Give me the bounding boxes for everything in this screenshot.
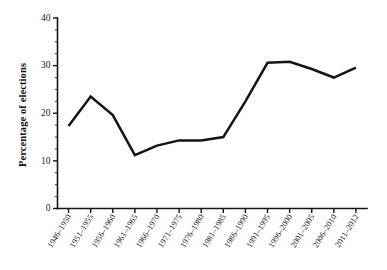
y-tick-label: 40 [41, 13, 51, 23]
line-chart: Percentage of elections 010203040 1946–1… [0, 0, 387, 270]
y-axis-label-text: Percentage of elections [17, 63, 28, 167]
data-series-line [69, 62, 356, 155]
y-tick-label: 30 [41, 60, 51, 70]
y-tick-label: 10 [41, 156, 51, 166]
y-axis-label: Percentage of elections [17, 63, 28, 167]
y-tick-label: 20 [41, 108, 51, 118]
y-axis-ticks: 010203040 [41, 13, 58, 214]
x-axis-tick-labels: 1946–19501951–19551956–19601961–19651966… [46, 213, 361, 249]
chart-figure: Percentage of elections 010203040 1946–1… [0, 0, 387, 270]
y-tick-label: 0 [46, 203, 51, 213]
